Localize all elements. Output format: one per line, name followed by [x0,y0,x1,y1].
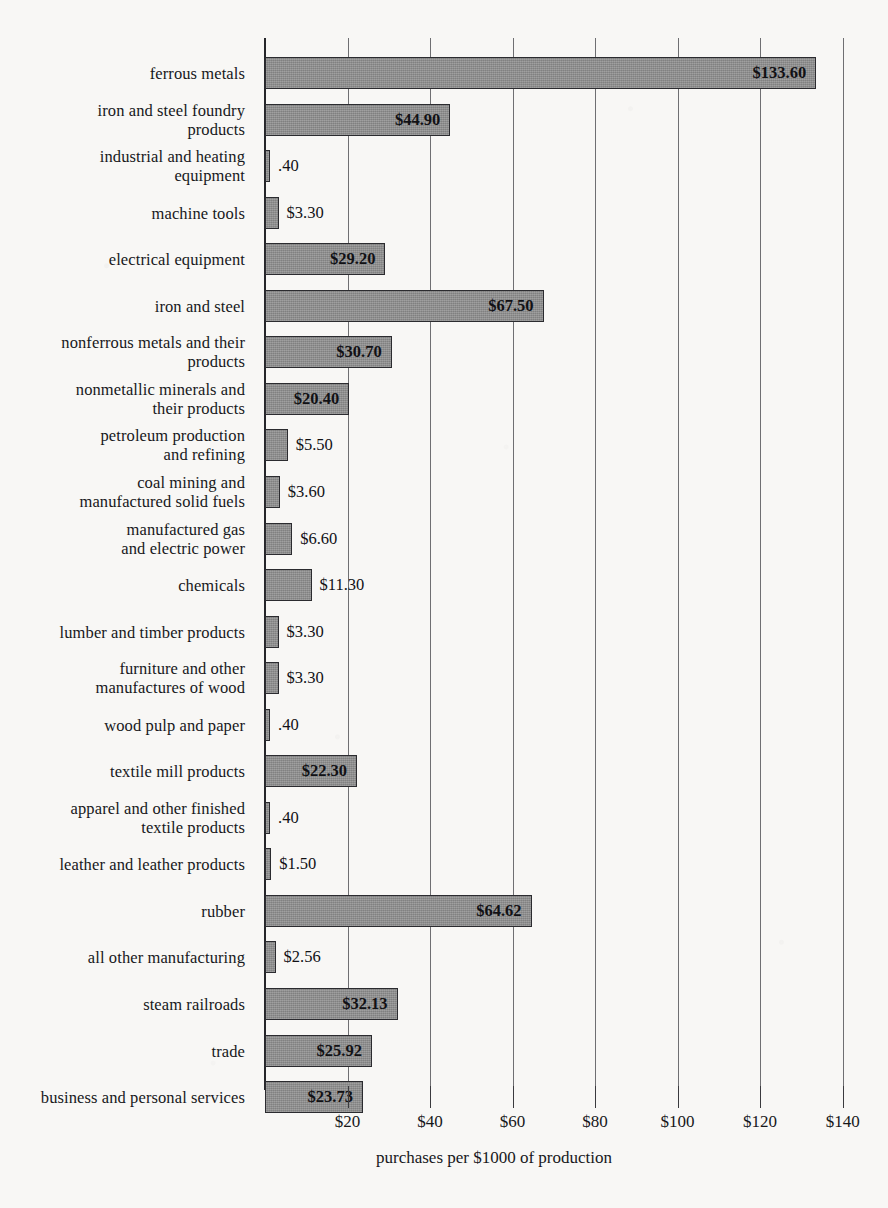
bar-value-label: $20.40 [294,390,339,408]
category-label: steam railroads [0,995,245,1014]
bar-value-label: $5.50 [296,436,333,454]
bar [265,476,280,508]
category-label: manufactured gas and electric power [0,520,245,558]
bar-row: iron and steel foundry products$44.90 [0,104,888,136]
bar-value-label: $6.60 [300,530,337,548]
category-label: lumber and timber products [0,622,245,641]
category-label: nonmetallic minerals and their products [0,380,245,418]
bar-row: industrial and heating equipment.40 [0,150,888,182]
bar-row: lumber and timber products$3.30 [0,616,888,648]
gridline-20 [348,38,349,1086]
bar-row: manufactured gas and electric power$6.60 [0,523,888,555]
bar-value-label: .40 [278,809,299,827]
bar-row: leather and leather products$1.50 [0,848,888,880]
bar-value-label: $29.20 [330,250,375,268]
x-tick-mark [430,1086,431,1108]
category-label: ferrous metals [0,64,245,83]
bar-row: iron and steel$67.50 [0,290,888,322]
x-axis-title: purchases per $1000 of production [0,1148,888,1168]
x-axis: $20$40$60$80$100$120$140 purchases per $… [0,1086,888,1208]
bar [265,57,816,89]
bar-row: electrical equipment$29.20 [0,243,888,275]
category-label: machine tools [0,203,245,222]
category-label: nonferrous metals and their products [0,333,245,371]
category-label: chemicals [0,576,245,595]
plot-area: ferrous metals$133.60iron and steel foun… [0,0,888,1090]
gridline-80 [595,38,596,1086]
gridline-60 [513,38,514,1086]
x-tick-mark [595,1086,596,1108]
bar [265,616,279,648]
bar-value-label: $67.50 [488,297,533,315]
x-tick-mark [760,1086,761,1108]
bar-value-label: $44.90 [395,111,440,129]
x-tick-label: $20 [335,1112,361,1132]
bar [265,523,292,555]
bar-row: all other manufacturing$2.56 [0,941,888,973]
bar-value-label: $2.56 [284,948,321,966]
bar-row: nonmetallic minerals and their products$… [0,383,888,415]
bar-value-label: $3.30 [287,623,324,641]
bar-value-label: .40 [278,157,299,175]
bar [265,150,270,182]
bar-row: chemicals$11.30 [0,569,888,601]
bar [265,662,279,694]
bar-row: steam railroads$32.13 [0,988,888,1020]
gridline-120 [760,38,761,1086]
bar-row: coal mining and manufactured solid fuels… [0,476,888,508]
category-label: all other manufacturing [0,948,245,967]
category-label: industrial and heating equipment [0,147,245,185]
bar-value-label: $64.62 [476,902,521,920]
bar-value-label: $3.60 [288,483,325,501]
bar [265,429,288,461]
category-label: leather and leather products [0,855,245,874]
bar [265,197,279,229]
horizontal-bar-chart: ferrous metals$133.60iron and steel foun… [0,0,888,1208]
category-label: rubber [0,901,245,920]
gridline-140 [843,38,844,1086]
bar-row: ferrous metals$133.60 [0,57,888,89]
category-label: electrical equipment [0,250,245,269]
category-label: apparel and other finished textile produ… [0,799,245,837]
category-label: iron and steel foundry products [0,101,245,139]
bar-value-label: $133.60 [753,64,807,82]
x-tick-mark [513,1086,514,1108]
bar-value-label: $1.50 [279,855,316,873]
bar-row: petroleum production and refining$5.50 [0,429,888,461]
x-tick-label: $60 [500,1112,526,1132]
bar-row: apparel and other finished textile produ… [0,802,888,834]
category-label: furniture and other manufactures of wood [0,659,245,697]
category-label: iron and steel [0,296,245,315]
bar-value-label: $3.30 [287,669,324,687]
x-tick-label: $140 [826,1112,860,1132]
bar-row: wood pulp and paper.40 [0,709,888,741]
bar-value-label: $25.92 [317,1042,362,1060]
bar [265,848,271,880]
bar-value-label: $22.30 [302,762,347,780]
gridline-100 [678,38,679,1086]
bar-value-label: .40 [278,716,299,734]
category-label: coal mining and manufactured solid fuels [0,473,245,511]
category-label: textile mill products [0,762,245,781]
x-tick-label: $120 [743,1112,777,1132]
x-tick-mark [678,1086,679,1108]
x-tick-label: $100 [661,1112,695,1132]
bar-value-label: $11.30 [320,576,365,594]
bar-row: textile mill products$22.30 [0,755,888,787]
gridline-40 [430,38,431,1086]
category-label: trade [0,1041,245,1060]
bar-row: trade$25.92 [0,1035,888,1067]
bar [265,802,270,834]
bar-row: furniture and other manufactures of wood… [0,662,888,694]
bar-value-label: $32.13 [342,995,387,1013]
bar-row: nonferrous metals and their products$30.… [0,336,888,368]
bar-row: machine tools$3.30 [0,197,888,229]
bar-value-label: $30.70 [336,343,381,361]
bar [265,941,276,973]
x-tick-mark [348,1086,349,1108]
category-label: petroleum production and refining [0,426,245,464]
category-label: wood pulp and paper [0,715,245,734]
bar [265,569,312,601]
x-tick-label: $80 [582,1112,608,1132]
bar [265,709,270,741]
